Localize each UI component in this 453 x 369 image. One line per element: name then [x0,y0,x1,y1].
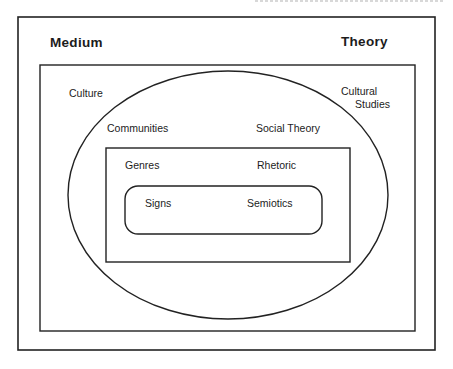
theory-heading: Theory [341,34,388,50]
label-cultural-studies-line2: Studies [355,98,390,110]
label-semiotics: Semiotics [247,197,293,209]
nested-diagram [0,0,453,369]
communities-ellipse [68,71,388,319]
label-culture: Culture [69,87,103,99]
label-social-theory: Social Theory [256,122,320,134]
label-signs: Signs [145,197,171,209]
outer-frame [18,17,435,350]
label-rhetoric: Rhetoric [257,159,296,171]
label-communities: Communities [107,122,168,134]
signs-rounded-rectangle [125,186,322,234]
medium-heading: Medium [50,35,103,51]
label-cultural-studies-line1: Cultural [341,85,377,97]
label-genres: Genres [125,159,159,171]
